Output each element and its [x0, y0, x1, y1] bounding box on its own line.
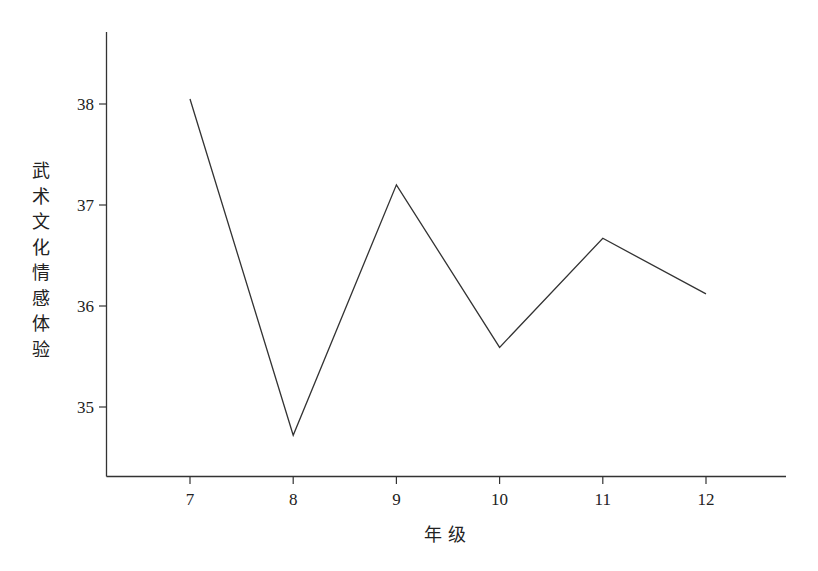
y-axis-title-char: 体 — [32, 313, 50, 334]
x-tick-label: 7 — [186, 490, 195, 509]
data-line — [190, 99, 706, 435]
y-axis-title-char: 验 — [32, 339, 50, 360]
x-tick-label: 11 — [595, 490, 611, 509]
y-tick-label: 38 — [77, 95, 94, 114]
y-axis-title-char: 感 — [32, 288, 50, 309]
line-chart: 35363738 789101112 年 级 武术文化情感体验 — [0, 0, 818, 571]
y-axis-title-char: 化 — [32, 237, 50, 258]
y-axis-title-char: 术 — [32, 186, 50, 207]
x-tick-label: 8 — [289, 490, 298, 509]
y-tick-label: 36 — [77, 297, 94, 316]
y-tick-label: 35 — [77, 398, 94, 417]
x-axis-title: 年 级 — [424, 524, 466, 545]
x-tick-label: 9 — [392, 490, 401, 509]
x-ticks: 789101112 — [186, 477, 715, 510]
y-tick-label: 37 — [77, 196, 95, 215]
y-axis-title-char: 情 — [32, 262, 50, 283]
y-axis-title: 武术文化情感体验 — [32, 160, 50, 360]
y-axis-title-char: 文 — [32, 211, 50, 232]
y-ticks: 35363738 — [77, 95, 107, 417]
y-axis-title-char: 武 — [32, 160, 50, 181]
x-tick-label: 10 — [491, 490, 508, 509]
x-tick-label: 12 — [698, 490, 715, 509]
